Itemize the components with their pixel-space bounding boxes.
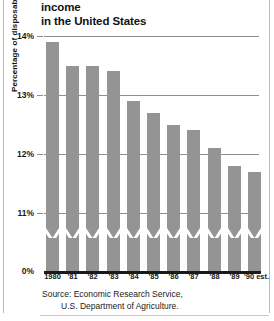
bar (208, 148, 221, 271)
bar (66, 66, 79, 272)
bar (248, 172, 261, 271)
bar (228, 166, 241, 271)
x-axis-labels-group: 1980'81'82'83'84'85'86'87'88'89'90 est. (44, 272, 261, 284)
chart-title-line-2: in the United States (41, 14, 256, 28)
x-tick-label: '81 (62, 272, 84, 281)
x-tick-label: '88 (204, 272, 226, 281)
y-axis-title: Percentage of disposable income (10, 0, 19, 92)
y-tick-mark-12 (37, 154, 43, 155)
x-tick-label: '87 (183, 272, 205, 281)
y-tick-label-13: 13% (0, 91, 34, 100)
plot-area: Percentage of disposable income 14%13%12… (44, 36, 259, 271)
y-tick-mark-11 (37, 213, 43, 214)
source-line-2: U.S. Department of Agriculture. (42, 301, 262, 313)
bar (107, 71, 120, 271)
frame-right-rule (269, 0, 270, 313)
x-tick-label: 1980 (42, 272, 64, 281)
x-tick-label: '82 (82, 272, 104, 281)
chart-title-line-1: Food spending as a percentage of income (41, 0, 256, 14)
y-tick-label-11: 11% (0, 209, 34, 218)
bars-group (44, 36, 259, 271)
bar (167, 125, 180, 272)
x-tick-label: '83 (103, 272, 125, 281)
source-line-1: Source: Economic Research Service, (42, 289, 262, 301)
bar (187, 130, 200, 271)
x-tick-label: '90 est. (240, 272, 274, 281)
y-tick-label-14: 14% (0, 32, 34, 41)
frame-bottom-rule (40, 315, 269, 316)
bar (127, 101, 140, 271)
x-tick-label: '85 (143, 272, 165, 281)
chart-figure: Food spending as a percentage of income … (0, 0, 273, 321)
y-tick-label-0: 0% (0, 267, 34, 276)
bar (147, 113, 160, 271)
y-tick-mark-13 (37, 95, 43, 96)
bar (86, 66, 99, 272)
bar (46, 42, 59, 271)
chart-title: Food spending as a percentage of income … (41, 0, 256, 28)
source-note: Source: Economic Research Service, U.S. … (42, 289, 262, 312)
y-tick-label-12: 12% (0, 150, 34, 159)
x-tick-label: '86 (163, 272, 185, 281)
x-tick-label: '84 (123, 272, 145, 281)
y-tick-mark-14 (37, 36, 43, 37)
